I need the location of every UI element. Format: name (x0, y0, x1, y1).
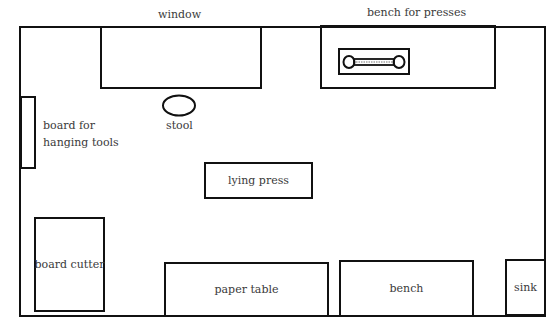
paper-table-label: paper table (215, 283, 279, 296)
lying-press-label: lying press (228, 174, 289, 187)
stool-label: stool (166, 119, 193, 132)
board-for-tools-label-line1: board for (43, 119, 95, 132)
press-screw-icon (342, 52, 406, 72)
sink-label: sink (514, 281, 537, 294)
paper-table: paper table (164, 262, 329, 317)
window-bench (100, 26, 262, 89)
board-cutter: board cutter (34, 217, 105, 312)
board-cutter-label: board cutter (35, 258, 105, 271)
bench-label: bench (390, 282, 424, 295)
stool-icon (160, 94, 198, 118)
bench-for-presses-label: bench for presses (367, 6, 466, 19)
board-for-tools-label-line2: hanging tools (43, 136, 119, 149)
window-label: window (158, 8, 201, 21)
bench: bench (339, 260, 474, 317)
sink: sink (505, 259, 546, 316)
board-for-hanging-tools (20, 96, 36, 169)
lying-press: lying press (204, 162, 313, 199)
